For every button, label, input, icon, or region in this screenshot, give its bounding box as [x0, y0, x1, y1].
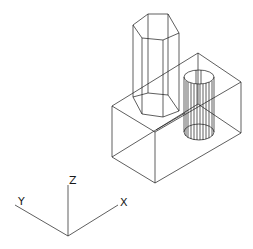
box-wireframe — [112, 53, 241, 183]
hexagonal-prism-wireframe — [133, 14, 179, 117]
cad-drawing-canvas: Z Y X — [0, 0, 253, 249]
x-axis-label: X — [120, 196, 128, 209]
y-axis-label: Y — [17, 195, 25, 208]
z-axis-label: Z — [69, 174, 77, 187]
ucs-axes-icon: Z Y X — [15, 174, 128, 236]
